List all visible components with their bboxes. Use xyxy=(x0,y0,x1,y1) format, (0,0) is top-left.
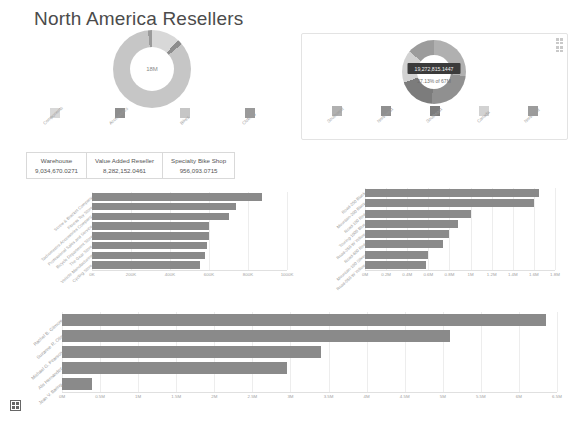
chart-salespeople-by-sales[interactable]: Rachel B. GilmoreSuzanne R. OtisMichael … xyxy=(62,312,557,402)
legend-item[interactable]: Southeast xyxy=(410,106,459,125)
kpi-value: 956,093.0715 xyxy=(180,167,218,174)
bar[interactable] xyxy=(365,199,534,207)
x-tick-label: 1.4M xyxy=(508,272,518,277)
plot-area: Screw & Bracket CompanyFitness Toy Store… xyxy=(92,192,287,280)
donut-center: 18M xyxy=(130,47,174,91)
x-tick-label: 0.4M xyxy=(402,272,412,277)
bar[interactable] xyxy=(62,330,450,343)
legend-item[interactable]: Canada xyxy=(459,106,508,125)
x-tick-label: 1M xyxy=(467,272,473,277)
bar[interactable] xyxy=(92,232,209,240)
page-title: North America Resellers xyxy=(34,8,243,30)
gridline xyxy=(555,188,556,270)
bar[interactable] xyxy=(92,242,207,250)
left-donut-chart[interactable]: 18M xyxy=(108,30,196,108)
axis-line xyxy=(365,270,555,271)
x-tick-label: 2.5M xyxy=(247,394,257,399)
legend-item[interactable]: Components xyxy=(22,108,87,127)
chart-resellers-by-sales[interactable]: Screw & Bracket CompanyFitness Toy Store… xyxy=(92,192,287,280)
gridline xyxy=(534,188,535,270)
gridline xyxy=(287,192,288,270)
plot-area: Road-250 BlackMountain-200 BlackRoad-150… xyxy=(365,188,555,280)
x-tick-label: 0.8M xyxy=(445,272,455,277)
x-tick-label: 1000K xyxy=(281,272,294,277)
legend-item[interactable]: Northwest xyxy=(361,106,410,125)
tooltip-subtext: 27.13% of 67M xyxy=(408,78,461,84)
x-tick-label: 1.2M xyxy=(487,272,497,277)
x-tick-label: 1M xyxy=(135,394,141,399)
bar[interactable] xyxy=(92,252,205,260)
x-tick-label: 0K xyxy=(89,272,94,277)
bar[interactable] xyxy=(365,261,426,269)
chart-products-by-sales[interactable]: Road-250 BlackMountain-200 BlackRoad-150… xyxy=(365,188,555,280)
legend-item[interactable]: Northeast xyxy=(508,106,557,125)
kpi-value: 9,034,670.0271 xyxy=(35,167,78,174)
kpi-card-row[interactable]: Warehouse9,034,670.0271Value Added Resel… xyxy=(26,152,235,179)
x-tick-label: 5M xyxy=(440,394,446,399)
kpi-card[interactable]: Specialty Bike Shop956,093.0715 xyxy=(163,153,234,178)
kpi-card[interactable]: Warehouse9,034,670.0271 xyxy=(27,153,87,178)
x-tick-label: 6.5M xyxy=(552,394,562,399)
x-tick-label: 200K xyxy=(126,272,136,277)
kpi-label: Warehouse xyxy=(41,157,72,164)
bar[interactable] xyxy=(62,314,546,327)
bar[interactable] xyxy=(365,210,471,218)
x-tick-label: 0M xyxy=(59,394,65,399)
bar[interactable] xyxy=(92,213,229,221)
legend-item[interactable]: Clothing xyxy=(217,108,282,127)
gridline xyxy=(248,192,249,270)
x-tick-label: 4M xyxy=(364,394,370,399)
x-tick-label: 2M xyxy=(211,394,217,399)
donut-tooltip: 19,272,815.1447 27.13% of 67M xyxy=(408,57,461,84)
right-donut-chart[interactable]: 19,272,815.1447 27.13% of 67M xyxy=(396,40,472,104)
kpi-label: Specialty Bike Shop xyxy=(171,157,226,164)
grid-icon[interactable] xyxy=(556,46,563,52)
x-tick-label: 600K xyxy=(204,272,214,277)
bar[interactable] xyxy=(62,362,287,375)
x-tick-label: 800K xyxy=(243,272,253,277)
x-tick-label: 0.5M xyxy=(95,394,105,399)
bar[interactable] xyxy=(92,203,236,211)
gridline xyxy=(557,312,558,392)
x-tick-label: 1.8M xyxy=(550,272,560,277)
x-tick-label: 5.5M xyxy=(476,394,486,399)
kpi-label: Value Added Reseller xyxy=(95,157,154,164)
x-tick-label: 3.5M xyxy=(324,394,334,399)
grid-icon[interactable] xyxy=(556,38,563,44)
bar[interactable] xyxy=(92,193,262,201)
panel-corner-icons[interactable] xyxy=(556,38,563,52)
bar[interactable] xyxy=(92,261,200,269)
legend-item[interactable]: Southwest xyxy=(312,106,361,125)
kpi-value: 8,282,152.0461 xyxy=(103,167,146,174)
bar[interactable] xyxy=(365,189,539,197)
kpi-card[interactable]: Value Added Reseller8,282,152.0461 xyxy=(87,153,163,178)
x-tick-label: 1.6M xyxy=(529,272,539,277)
bar[interactable] xyxy=(62,378,92,391)
dashboard-canvas: North America Resellers 18M ComponentsAc… xyxy=(0,0,575,440)
donut-ring[interactable]: 18M xyxy=(113,30,191,108)
x-tick-label: 3M xyxy=(287,394,293,399)
bar[interactable] xyxy=(92,222,209,230)
tooltip-value: 19,272,815.1447 xyxy=(408,63,461,74)
axis-line xyxy=(92,270,287,271)
x-tick-label: 4.5M xyxy=(400,394,410,399)
x-tick-label: 400K xyxy=(165,272,175,277)
bar[interactable] xyxy=(365,240,443,248)
x-tick-label: 0M xyxy=(362,272,368,277)
category-label: Rachel B. Gilmore xyxy=(32,318,63,347)
table-grid-icon[interactable] xyxy=(10,400,21,411)
legend-item[interactable]: Accessories xyxy=(87,108,152,127)
axis-line xyxy=(62,392,557,393)
bar[interactable] xyxy=(365,230,449,238)
right-donut-legend: SouthwestNorthwestSoutheastCanadaNorthea… xyxy=(312,106,557,125)
x-tick-label: 0.2M xyxy=(381,272,391,277)
plot-area: Rachel B. GilmoreSuzanne R. OtisMichael … xyxy=(62,312,557,402)
legend-item[interactable]: Bikes xyxy=(152,108,217,127)
bar[interactable] xyxy=(365,251,428,259)
bar[interactable] xyxy=(365,220,458,228)
bar[interactable] xyxy=(62,346,321,359)
category-label: Michael G. Pearson xyxy=(30,350,63,381)
left-donut-legend: ComponentsAccessoriesBikesClothing xyxy=(22,108,282,127)
x-tick-label: 6M xyxy=(516,394,522,399)
right-donut-panel[interactable]: 19,272,815.1447 27.13% of 67M SouthwestN… xyxy=(301,33,568,140)
